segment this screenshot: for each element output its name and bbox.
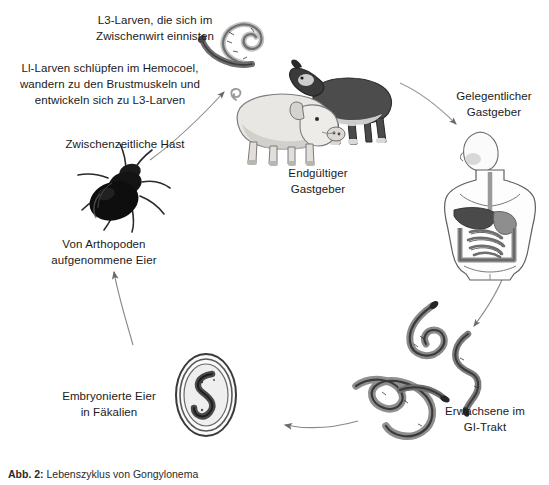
label-l3-larvae: L3-Larven, die sich im Zwischenwirt einn… [60,12,250,44]
figure-caption: Abb. 2: Lebenszyklus von Gongylonema [8,468,198,480]
label-definitive-host: Endgültiger Gastgeber [258,165,378,197]
dung-beetle-icon [68,142,186,236]
label-l1-larvae: Ll-Larven schlüpfen im Hemocoel, wandern… [4,60,216,108]
pig-icon [218,72,346,168]
label-occasional-host: Gelegentlicher Gastgeber [440,88,548,120]
label-intermediate-host: Zwischenzeitliche Hast [50,136,200,152]
label-embryonated-eggs: Embryonierte Eier in Fäkalien [44,388,174,420]
embryonated-egg-icon [172,352,240,438]
label-eggs-ingested-by-arthropods: Von Arthopoden aufgenommene Eier [24,236,184,268]
caption-prefix: Abb. 2: [8,468,44,480]
lifecycle-diagram: L3-Larven, die sich im Zwischenwirt einn… [0,0,549,485]
caption-text: Lebenszyklus von Gongylonema [47,468,199,480]
arrow-eggs-to-beetle [114,272,133,345]
human-digestive-system-icon [440,128,540,280]
label-adults-gi-tract: Erwachsene im GI-Trakt [430,403,540,435]
